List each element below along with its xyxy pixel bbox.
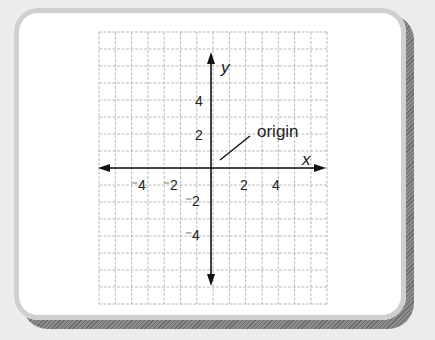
x-axis-right-arrow-icon	[314, 164, 326, 172]
y-axis-down-arrow-icon	[207, 274, 215, 286]
coordinate-plane: y x ⁻4 ⁻2 2 4 4 2 ⁻2 ⁻4 origin	[0, 0, 435, 340]
y-axis-up-arrow-icon	[207, 52, 215, 64]
x-tick-4: 4	[272, 177, 280, 193]
y-tick-neg2: ⁻2	[185, 193, 200, 209]
x-tick-neg4: ⁻4	[131, 177, 146, 193]
x-tick-2: 2	[240, 177, 248, 193]
x-axis	[98, 164, 326, 172]
x-axis-left-arrow-icon	[98, 164, 110, 172]
y-tick-neg4: ⁻4	[185, 227, 200, 243]
y-tick-2: 2	[195, 127, 203, 143]
y-tick-4: 4	[195, 93, 203, 109]
y-axis-label: y	[220, 58, 231, 77]
origin-label: origin	[257, 122, 299, 141]
y-axis	[207, 52, 215, 286]
x-axis-label: x	[301, 150, 311, 169]
x-tick-neg2: ⁻2	[163, 177, 178, 193]
